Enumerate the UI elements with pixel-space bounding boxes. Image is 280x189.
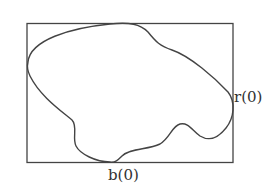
diagram-canvas: r(0) b(0) [0,0,280,189]
label-r0: r(0) [234,88,262,106]
bounding-rectangle [27,24,233,163]
closed-curve [27,23,233,162]
label-b0: b(0) [108,166,139,184]
